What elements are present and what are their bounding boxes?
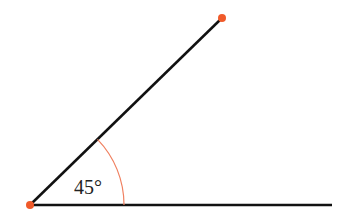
vertex-point: [26, 201, 34, 209]
angle-label: 45°: [74, 176, 102, 199]
angle-diagram: [0, 0, 345, 217]
ray-end-point: [218, 14, 226, 22]
angled-ray: [30, 18, 222, 205]
